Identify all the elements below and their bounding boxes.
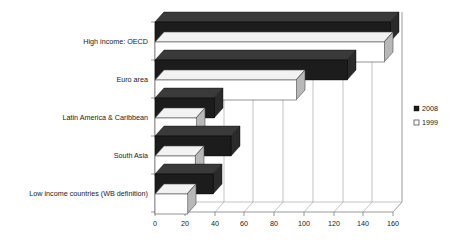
x-tick-label-40: 40 (211, 219, 219, 228)
bar-chart: High income: OECD Euro area Latin Americ… (0, 0, 455, 244)
x-tick-label-60: 60 (240, 219, 248, 228)
bar-1999-low-income-countries (155, 184, 196, 214)
legend-label-2008: 2008 (422, 104, 438, 113)
x-tick-label-120: 120 (328, 219, 340, 228)
category-label-high-income-oecd: High income: OECD (83, 37, 148, 46)
x-tick-label-20: 20 (181, 219, 189, 228)
x-tick-label-80: 80 (270, 219, 278, 228)
category-label-latin-america-caribbean: Latin America & Caribbean (63, 113, 149, 122)
x-tick-label-140: 140 (357, 219, 369, 228)
chart-svg: High income: OECD Euro area Latin Americ… (0, 0, 455, 244)
category-label-south-asia: South Asia (114, 151, 148, 160)
x-tick-label-160: 160 (387, 219, 399, 228)
category-label-low-income-countries: Low income countries (WB definition) (29, 189, 148, 198)
x-tick-label-100: 100 (298, 219, 310, 228)
open-square-swatch (414, 120, 419, 125)
filled-square-swatch (414, 106, 419, 111)
category-label-euro-area: Euro area (116, 75, 148, 84)
x-tick-label-0: 0 (153, 219, 157, 228)
legend-label-1999: 1999 (422, 118, 438, 127)
